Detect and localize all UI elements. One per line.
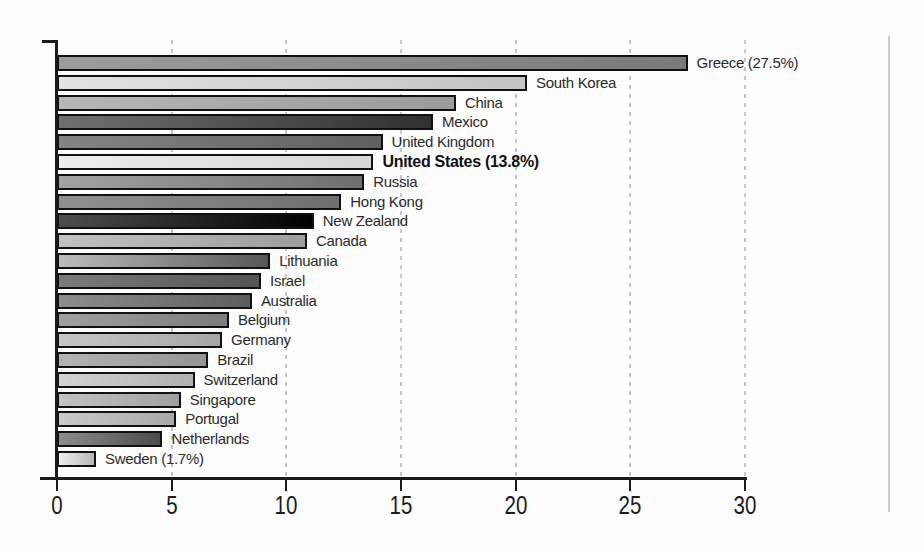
bar-hong-kong xyxy=(57,194,341,210)
x-tick-mark-20 xyxy=(515,478,517,491)
bar-chart: Greece (27.5%)South KoreaChinaMexicoUnit… xyxy=(0,0,924,551)
bar-mexico xyxy=(57,114,433,130)
bar-brazil xyxy=(57,352,208,368)
bar-israel xyxy=(57,273,261,289)
bar-label: New Zealand xyxy=(323,211,408,231)
bar-label: Israel xyxy=(270,271,305,291)
bar-united-states xyxy=(57,154,373,170)
y-axis-line xyxy=(55,40,58,478)
bar-label: Russia xyxy=(373,172,417,192)
bar-australia xyxy=(57,293,252,309)
bar-label: Greece (27.5%) xyxy=(697,53,799,73)
x-tick-mark-15 xyxy=(400,478,402,491)
x-tick-label-20: 20 xyxy=(491,491,540,520)
bar-new-zealand xyxy=(57,213,314,229)
bar-label: Brazil xyxy=(217,350,253,370)
x-axis-line xyxy=(40,477,747,480)
bar-label: China xyxy=(465,93,503,113)
bar-sweden xyxy=(57,451,96,467)
bar-lithuania xyxy=(57,253,270,269)
bar-label: Mexico xyxy=(442,112,488,132)
scanned-chart-page: Greece (27.5%)South KoreaChinaMexicoUnit… xyxy=(0,0,924,551)
bar-china xyxy=(57,95,456,111)
bar-label: Canada xyxy=(316,231,367,251)
bar-portugal xyxy=(57,411,176,427)
x-tick-label-30: 30 xyxy=(720,491,769,520)
bar-label: Switzerland xyxy=(204,370,278,390)
bar-label: Australia xyxy=(261,291,317,311)
x-tick-label-0: 0 xyxy=(32,491,81,520)
bar-germany xyxy=(57,332,222,348)
bar-canada xyxy=(57,233,307,249)
bar-label: United States (13.8%) xyxy=(382,152,538,172)
bar-label: Lithuania xyxy=(279,251,337,271)
bar-belgium xyxy=(57,312,229,328)
x-tick-mark-30 xyxy=(744,478,746,491)
bar-label: Belgium xyxy=(238,310,290,330)
x-tick-mark-10 xyxy=(285,478,287,491)
bar-label: Netherlands xyxy=(171,429,249,449)
gridline-x-25 xyxy=(629,40,631,477)
bar-label: South Korea xyxy=(536,73,616,93)
bar-south-korea xyxy=(57,75,527,91)
bar-united-kingdom xyxy=(57,134,383,150)
x-tick-label-10: 10 xyxy=(262,491,311,520)
gridline-x-20 xyxy=(515,40,517,477)
bar-greece xyxy=(57,55,688,71)
bar-label: Germany xyxy=(231,330,291,350)
x-tick-mark-0 xyxy=(56,478,58,491)
page-edge-line xyxy=(888,36,890,512)
x-tick-label-5: 5 xyxy=(147,491,196,520)
bar-label: Singapore xyxy=(190,390,256,410)
bar-label: Sweden (1.7%) xyxy=(105,449,204,469)
x-tick-label-15: 15 xyxy=(376,491,425,520)
x-tick-mark-5 xyxy=(171,478,173,491)
bar-label: Hong Kong xyxy=(350,192,422,212)
x-tick-mark-25 xyxy=(629,478,631,491)
bar-switzerland xyxy=(57,372,195,388)
bar-singapore xyxy=(57,392,181,408)
x-tick-label-25: 25 xyxy=(606,491,655,520)
bar-label: Portugal xyxy=(185,409,238,429)
gridline-x-30 xyxy=(744,40,746,477)
bar-netherlands xyxy=(57,431,162,447)
bar-label: United Kingdom xyxy=(392,132,495,152)
bar-russia xyxy=(57,174,364,190)
